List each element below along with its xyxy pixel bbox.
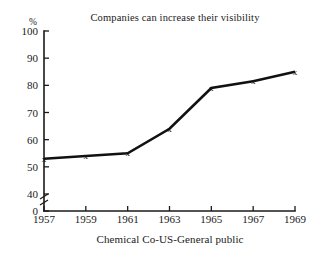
axes [40,31,295,211]
data-point-marker: x [84,151,89,161]
chart-figure: Companies can increase their visibility … [0,0,312,257]
x-tick-label: 1961 [117,213,139,225]
y-tick-label: 100 [22,25,39,37]
y-tick-label: 80 [27,79,39,91]
data-point-marker: x [293,67,298,77]
x-axis-tick-labels: 1957195919611963196519671969 [33,213,307,225]
x-tick-label: 1957 [33,213,56,225]
data-point-marker: x [251,76,256,86]
x-tick-label: 1967 [242,213,265,225]
x-axis-label: Chemical Co-US-General public [96,233,243,245]
data-point-marker: x [167,124,172,134]
x-tick-label: 1969 [284,213,307,225]
y-tick-label: 70 [27,107,39,119]
chart-canvas: Companies can increase their visibility … [0,0,312,257]
data-point-marker: x [125,148,130,158]
x-tick-label: 1959 [75,213,98,225]
y-tick-label: 40 [27,188,39,200]
data-point-markers: xxxxxxx [42,67,298,164]
data-point-marker: x [209,83,214,93]
data-point-marker: x [42,154,47,164]
y-tick-label: 90 [27,52,39,64]
chart-title: Companies can increase their visibility [90,12,260,23]
x-tick-label: 1965 [200,213,223,225]
x-tick-label: 1963 [159,213,182,225]
y-tick-label: 60 [27,134,39,146]
y-axis-tick-labels: 1009080706050400 [22,25,39,217]
data-series-line [44,72,295,159]
y-tick-label: 50 [27,161,39,173]
